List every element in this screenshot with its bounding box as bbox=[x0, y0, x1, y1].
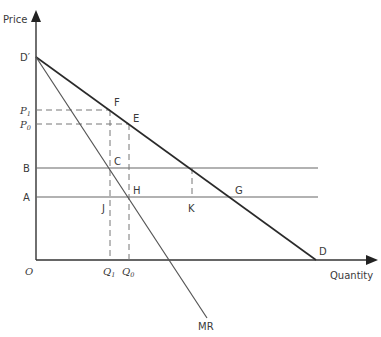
price-label-P0: P0 bbox=[19, 119, 31, 132]
demand-curve bbox=[36, 57, 316, 260]
point-H: H bbox=[133, 185, 141, 196]
demand-start-label: D′ bbox=[20, 52, 31, 63]
demand-end-label: D bbox=[319, 246, 327, 257]
x-axis-label: Quantity bbox=[330, 270, 373, 281]
point-F: F bbox=[114, 97, 120, 108]
price-label-A: A bbox=[23, 192, 30, 203]
x-axis-arrow-icon bbox=[366, 255, 378, 265]
mr-curve bbox=[36, 57, 207, 318]
price-label-B: B bbox=[23, 163, 30, 174]
mr-label: MR bbox=[198, 321, 214, 332]
price-label-P1: P1 bbox=[19, 105, 31, 118]
point-K: K bbox=[188, 203, 195, 214]
origin-label: O bbox=[25, 266, 33, 277]
quantity-label-Q1: Q1 bbox=[103, 266, 115, 279]
y-axis-label: Price bbox=[3, 14, 27, 25]
monopoly-diagram: Price Quantity O D′ D MR P1 P0 B A Q1 Q0… bbox=[0, 0, 381, 337]
quantity-label-Q0: Q0 bbox=[122, 266, 134, 279]
point-J: J bbox=[101, 203, 105, 214]
y-axis-arrow-icon bbox=[31, 10, 41, 22]
point-G: G bbox=[235, 185, 243, 196]
point-C: C bbox=[114, 156, 121, 167]
point-E: E bbox=[133, 113, 139, 124]
